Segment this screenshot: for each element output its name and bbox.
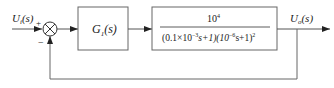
minus-sign: − <box>38 37 44 48</box>
block-diagram: Ui(s) + − G1(s) 104 (0.1×10−3s+1)(10−6s+… <box>0 0 334 88</box>
plant-block: 104 (0.1×10−3s+1)(10−6s+1)2 <box>152 7 277 50</box>
output-label: Uo(s) <box>290 12 313 26</box>
input-label: Ui(s) <box>12 12 34 26</box>
plant-denominator: (0.1×10−3s+1)(10−6s+1)2 <box>162 32 255 44</box>
plus-sign: + <box>36 18 41 28</box>
controller-label: G1(s) <box>92 22 117 38</box>
controller-block: G1(s) <box>78 7 128 50</box>
summing-junction <box>43 22 57 36</box>
